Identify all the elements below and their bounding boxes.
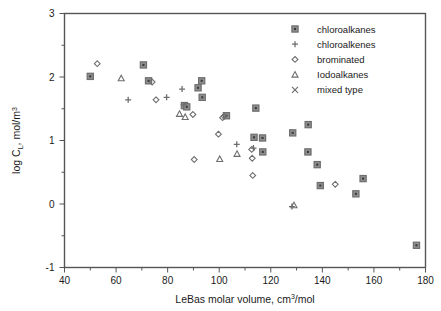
data-point-square-core xyxy=(307,124,309,126)
data-point-square-core xyxy=(186,106,188,108)
data-point-square-core xyxy=(355,193,357,195)
y-tick-label: 1 xyxy=(49,135,55,146)
data-point-square-core xyxy=(319,185,321,187)
legend-label: chloroalkenes xyxy=(317,39,376,50)
data-point-square-core xyxy=(307,151,309,153)
x-tick-label: 160 xyxy=(366,275,383,286)
data-point-square-core xyxy=(261,137,263,139)
x-tick-label: 100 xyxy=(211,275,228,286)
data-point-square-core xyxy=(362,178,364,180)
data-point-square-core xyxy=(197,87,199,89)
x-tick-label: 180 xyxy=(417,275,434,286)
data-point-square-core xyxy=(201,96,203,98)
scatter-chart-figure: 406080100120140160180-10123 chloroalkane… xyxy=(0,0,441,311)
legend-label: chloroalkanes xyxy=(317,24,376,35)
y-axis-title: log CL, mol/m3 xyxy=(10,107,24,174)
legend-label: mixed type xyxy=(317,84,363,95)
x-tick-label: 120 xyxy=(262,275,279,286)
data-point-square-core xyxy=(253,136,255,138)
y-tick-label: 0 xyxy=(49,199,55,210)
data-point-square-core xyxy=(89,75,91,77)
data-point-square-core xyxy=(294,28,296,30)
data-point-square-core xyxy=(142,64,144,66)
x-tick-label: 80 xyxy=(162,275,174,286)
y-tick-label: 2 xyxy=(49,72,55,83)
chart-canvas: 406080100120140160180-10123 chloroalkane… xyxy=(0,0,441,311)
data-point-square-core xyxy=(292,132,294,134)
y-tick-label: 3 xyxy=(49,8,55,19)
legend-label: brominated xyxy=(317,54,365,65)
data-point-square-core xyxy=(255,107,257,109)
x-tick-label: 40 xyxy=(59,275,71,286)
x-tick-label: 140 xyxy=(314,275,331,286)
data-point-square-core xyxy=(316,164,318,166)
data-point-square-core xyxy=(262,151,264,153)
data-point-square-core xyxy=(415,244,417,246)
legend-label: Iodoalkanes xyxy=(317,69,368,80)
x-tick-label: 60 xyxy=(111,275,123,286)
y-tick-label: -1 xyxy=(46,262,55,273)
data-point-square-core xyxy=(201,80,203,82)
